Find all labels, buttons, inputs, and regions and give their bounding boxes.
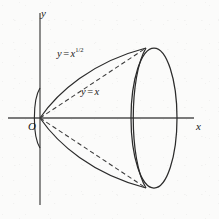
linear-label-lhs: y [81, 86, 86, 97]
sqrt-label-exponent: 1/2 [75, 46, 83, 53]
linear-line-lower [40, 118, 146, 188]
y-axis-label: y [41, 8, 46, 19]
axes-group [8, 13, 194, 205]
sqrt-curve-label: y=x1/2 [57, 47, 84, 59]
linear-line-upper [40, 48, 146, 118]
figure-container: y x O y=x1/2 y=x [0, 0, 219, 219]
linear-curve-label: y=x [81, 87, 99, 98]
origin-label: O [28, 121, 36, 132]
linear-label-equals: = [86, 86, 95, 97]
linear-label-rhs: x [95, 86, 100, 97]
solid-of-revolution-figure [0, 0, 219, 219]
x-axis-label: x [196, 121, 201, 132]
sqrt-label-lhs: y [57, 48, 62, 59]
sqrt-label-equals: = [62, 48, 71, 59]
